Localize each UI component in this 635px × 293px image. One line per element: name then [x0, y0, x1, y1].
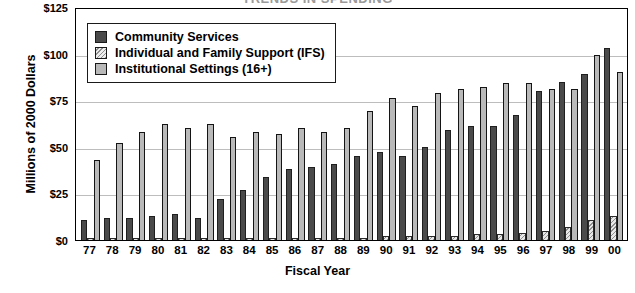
x-tick-86: 86: [283, 244, 306, 262]
chart-legend: Community Services Individual and Family…: [87, 23, 336, 83]
bar-cs-97: [536, 91, 542, 240]
x-tick-79: 79: [124, 244, 147, 262]
bar-group-97: [534, 9, 557, 240]
y-axis-tick-labels: $0$25$50$75$100$125: [22, 0, 68, 250]
x-tick-83: 83: [215, 244, 238, 262]
chart-title: TRENDS IN SPENDING: [0, 0, 635, 3]
legend-swatch-community-services-icon: [95, 31, 107, 43]
legend-label-ifs: Individual and Family Support (IFS): [115, 47, 325, 60]
x-tick-91: 91: [398, 244, 421, 262]
bar-inst-85: [276, 134, 282, 240]
bar-inst-00: [617, 72, 623, 240]
bar-inst-92: [435, 93, 441, 240]
bar-inst-79: [139, 132, 145, 240]
bar-cs-00: [604, 48, 610, 240]
trends-in-spending-chart: TRENDS IN SPENDING Millions of 2000 Doll…: [0, 0, 635, 293]
bar-group-91: [398, 9, 421, 240]
x-tick-90: 90: [375, 244, 398, 262]
bar-inst-87: [321, 132, 327, 240]
bar-cs-82: [195, 218, 201, 240]
bar-cs-98: [559, 82, 565, 240]
bar-inst-78: [116, 143, 122, 240]
bar-cs-86: [286, 169, 292, 240]
bar-inst-77: [94, 160, 100, 240]
bar-group-90: [375, 9, 398, 240]
bar-inst-96: [526, 83, 532, 240]
bar-cs-93: [445, 130, 451, 240]
x-tick-92: 92: [420, 244, 443, 262]
bar-cs-91: [399, 156, 405, 240]
bar-cs-77: [81, 220, 87, 241]
bar-cs-81: [172, 214, 178, 240]
legend-label-community-services: Community Services: [115, 31, 239, 44]
bar-inst-93: [458, 89, 464, 240]
x-tick-97: 97: [535, 244, 558, 262]
bar-cs-79: [126, 218, 132, 240]
bar-inst-91: [412, 106, 418, 240]
bar-inst-95: [503, 83, 509, 240]
bar-cs-90: [377, 152, 383, 240]
bar-cs-92: [422, 147, 428, 240]
bar-inst-97: [549, 89, 555, 240]
y-tick-50: $50: [50, 142, 68, 154]
bar-cs-87: [308, 167, 314, 240]
x-tick-89: 89: [352, 244, 375, 262]
bar-inst-81: [185, 128, 191, 240]
x-tick-82: 82: [192, 244, 215, 262]
x-tick-96: 96: [512, 244, 535, 262]
bar-group-00: [602, 9, 625, 240]
legend-item-institutional: Institutional Settings (16+): [95, 61, 325, 77]
y-tick-100: $100: [44, 49, 68, 61]
bar-cs-89: [354, 156, 360, 240]
bar-cs-88: [331, 164, 337, 240]
x-tick-85: 85: [261, 244, 284, 262]
bar-group-94: [466, 9, 489, 240]
x-tick-93: 93: [443, 244, 466, 262]
legend-item-community-services: Community Services: [95, 29, 325, 45]
x-tick-84: 84: [238, 244, 261, 262]
bar-inst-80: [162, 124, 168, 240]
legend-swatch-ifs-icon: [95, 47, 107, 59]
x-tick-77: 77: [78, 244, 101, 262]
legend-swatch-institutional-icon: [95, 63, 107, 75]
x-tick-81: 81: [169, 244, 192, 262]
x-axis-tick-labels: 7778798081828384858687888990919293949596…: [75, 244, 628, 262]
x-axis-title: Fiscal Year: [0, 264, 635, 278]
bar-group-95: [489, 9, 512, 240]
bar-group-99: [580, 9, 603, 240]
bar-inst-83: [230, 137, 236, 240]
bar-inst-94: [480, 87, 486, 240]
y-tick-125: $125: [44, 2, 68, 14]
legend-label-institutional: Institutional Settings (16+): [115, 63, 272, 76]
bar-cs-84: [240, 190, 246, 240]
bar-group-92: [420, 9, 443, 240]
bar-cs-99: [581, 74, 587, 240]
bar-inst-88: [344, 128, 350, 240]
bar-group-89: [352, 9, 375, 240]
bar-cs-85: [263, 177, 269, 240]
y-tick-25: $25: [50, 188, 68, 200]
y-tick-75: $75: [50, 95, 68, 107]
bar-inst-89: [367, 111, 373, 240]
y-tick-0: $0: [56, 235, 68, 247]
bar-inst-82: [207, 124, 213, 240]
bar-cs-95: [490, 126, 496, 240]
x-tick-78: 78: [101, 244, 124, 262]
x-tick-99: 99: [580, 244, 603, 262]
bar-inst-86: [298, 128, 304, 240]
x-tick-94: 94: [466, 244, 489, 262]
bar-group-93: [443, 9, 466, 240]
x-tick-88: 88: [329, 244, 352, 262]
x-tick-98: 98: [557, 244, 580, 262]
bar-inst-84: [253, 132, 259, 240]
x-tick-95: 95: [489, 244, 512, 262]
x-tick-80: 80: [146, 244, 169, 262]
bar-cs-83: [217, 199, 223, 240]
bar-group-96: [511, 9, 534, 240]
bar-group-98: [557, 9, 580, 240]
bar-inst-99: [594, 55, 600, 240]
bar-cs-96: [513, 115, 519, 240]
bar-cs-80: [149, 216, 155, 240]
x-tick-00: 00: [603, 244, 626, 262]
bar-inst-90: [389, 98, 395, 240]
